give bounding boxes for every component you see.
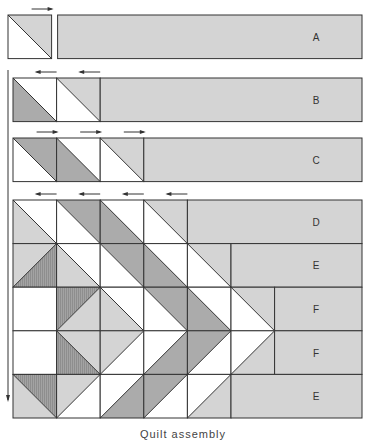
half-square-triangle (57, 287, 101, 331)
row-label: E (313, 391, 320, 402)
row-strip-a: A (58, 15, 362, 59)
half-square-triangle (100, 287, 144, 331)
quilt-row-c: C (13, 138, 362, 182)
arrow-right-icon (80, 130, 102, 134)
quilt-rows: ABCDEFFE (8, 15, 362, 418)
half-square-triangle (13, 78, 57, 122)
quilt-row-b: B (13, 78, 362, 122)
half-square-triangle (187, 331, 231, 375)
half-square-triangle (144, 200, 188, 244)
row-strip-b: B (100, 78, 362, 122)
half-square-triangle (13, 200, 57, 244)
row-label: D (312, 217, 319, 228)
half-square-triangle (144, 331, 188, 375)
arrow-left-icon (78, 192, 100, 196)
quilt-row-f: F (13, 331, 362, 375)
half-square-triangle (100, 138, 144, 182)
row-label: E (313, 260, 320, 271)
half-square-triangle (57, 244, 101, 288)
half-square-triangle (13, 331, 57, 375)
half-square-triangle (57, 78, 101, 122)
half-square-triangle (144, 374, 188, 418)
half-square-triangle (187, 374, 231, 418)
figure-caption: Quilt assembly (0, 428, 366, 440)
row-label: F (313, 348, 319, 359)
half-square-triangle (187, 244, 231, 288)
half-square-triangle (57, 138, 101, 182)
half-square-triangle (8, 15, 52, 59)
half-square-triangle (13, 244, 57, 288)
half-square-triangle (57, 374, 101, 418)
row-label: B (313, 95, 320, 106)
row-strip-f: F (275, 331, 362, 375)
half-square-triangle (100, 200, 144, 244)
arrow-left-icon (165, 192, 187, 196)
quilt-row-e: E (13, 244, 362, 288)
row-label: F (313, 304, 319, 315)
quilt-row-f: F (13, 287, 362, 331)
arrow-right-icon (32, 7, 54, 11)
arrow-right-icon (37, 130, 59, 134)
arrow-down-icon (6, 70, 10, 402)
row-strip-e: E (231, 244, 362, 288)
quilt-row-d: D (13, 200, 362, 244)
half-square-triangle (57, 331, 101, 375)
half-square-triangle (231, 287, 275, 331)
half-square-triangle (13, 374, 57, 418)
quilt-row-a: A (8, 15, 362, 59)
half-square-triangle (144, 287, 188, 331)
half-square-triangle (13, 138, 57, 182)
half-square-triangle (100, 244, 144, 288)
half-square-triangle (231, 331, 275, 375)
row-label: C (312, 155, 319, 166)
row-strip-c: C (144, 138, 362, 182)
arrow-left-icon (122, 192, 144, 196)
row-strip-e: E (231, 374, 362, 418)
arrow-left-icon (35, 192, 57, 196)
arrow-left-icon (78, 70, 100, 74)
half-square-triangle (100, 331, 144, 375)
half-square-triangle (57, 200, 101, 244)
half-square-triangle (187, 287, 231, 331)
row-strip-f: F (275, 287, 362, 331)
half-square-triangle (13, 287, 57, 331)
arrow-right-icon (124, 130, 146, 134)
half-square-triangle (100, 374, 144, 418)
row-label: A (313, 32, 320, 43)
half-square-triangle (144, 244, 188, 288)
arrow-left-icon (35, 70, 57, 74)
quilt-row-e: E (13, 374, 362, 418)
row-strip-d: D (187, 200, 362, 244)
